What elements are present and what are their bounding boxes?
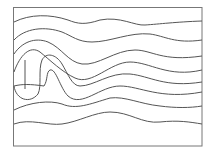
streamline-9 <box>14 112 202 124</box>
streamline-diagram <box>0 0 211 157</box>
streamline-6 <box>14 55 202 99</box>
streamline-plot <box>0 0 211 157</box>
streamline-4 <box>14 50 202 80</box>
streamline-7 <box>14 70 202 100</box>
streamline-8 <box>14 98 202 110</box>
streamlines-group <box>14 16 202 125</box>
streamline-1 <box>14 16 202 25</box>
